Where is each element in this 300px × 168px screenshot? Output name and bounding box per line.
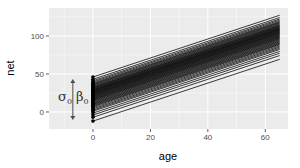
chart: σ0 β0 050100 0204060 age net [0, 0, 300, 168]
intercept-point [91, 115, 95, 119]
x-tick-label: 60 [261, 133, 270, 142]
x-axis-title: age [159, 150, 177, 162]
x-tick-label: 40 [203, 133, 212, 142]
x-axis: 0204060 [91, 129, 271, 142]
y-tick-label: 100 [31, 32, 45, 41]
y-axis: 050100 [31, 32, 49, 117]
y-tick-label: 0 [40, 108, 45, 117]
intercept-points [91, 75, 95, 123]
intercept-point [91, 119, 95, 123]
y-tick-label: 50 [35, 70, 44, 79]
x-tick-label: 0 [91, 133, 96, 142]
y-axis-title: net [4, 60, 16, 75]
x-tick-label: 20 [146, 133, 155, 142]
